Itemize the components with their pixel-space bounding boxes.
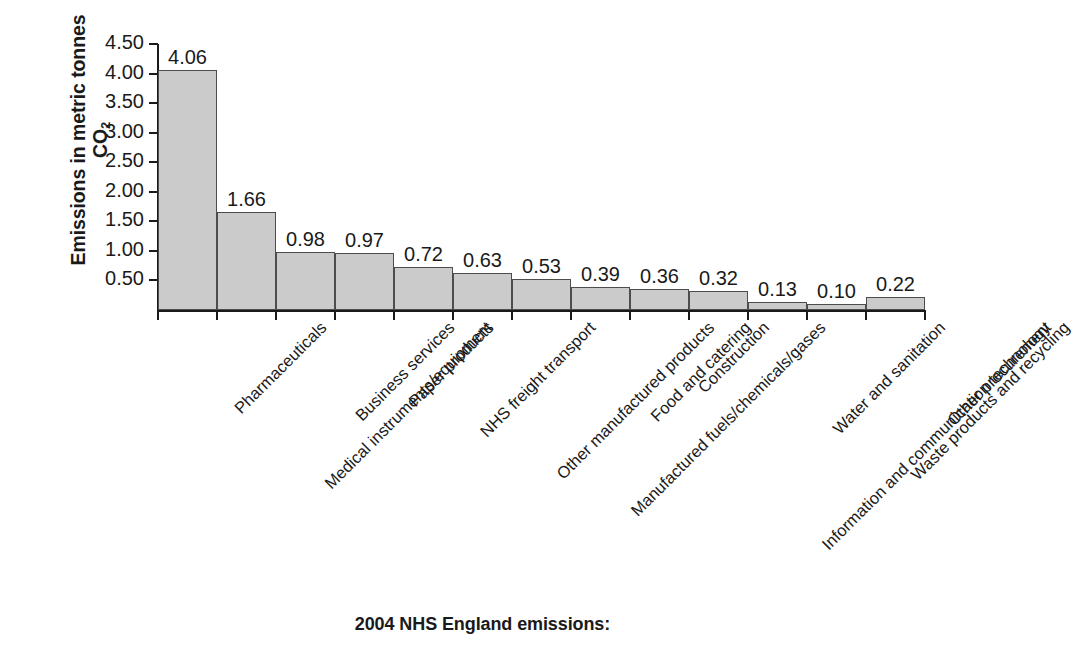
y-axis-tick: 3.00 xyxy=(149,132,158,134)
y-axis-tick: 3.50 xyxy=(149,102,158,104)
bar-value-label: 0.97 xyxy=(345,229,384,252)
y-axis-tick: 4.00 xyxy=(149,73,158,75)
bar: 0.22 xyxy=(866,297,925,310)
x-axis-tick xyxy=(865,310,867,320)
bar-value-label: 4.06 xyxy=(168,46,207,69)
y-axis-tick-label: 1.00 xyxy=(105,238,144,261)
y-axis-tick-label: 4.00 xyxy=(105,61,144,84)
chart-caption: 2004 NHS England emissions: xyxy=(0,614,965,635)
bar: 0.63 xyxy=(453,273,512,310)
x-axis-category-label: Other procurement xyxy=(943,318,1054,429)
y-axis-title-line1: Emissions in metric tonnes xyxy=(68,15,90,266)
y-axis-tick-label: 4.50 xyxy=(105,31,144,54)
bar: 0.72 xyxy=(394,267,453,310)
x-axis-tick xyxy=(629,310,631,320)
bar: 0.39 xyxy=(571,287,630,310)
y-axis-tick-label: 3.00 xyxy=(105,120,144,143)
y-axis-tick-label: 3.50 xyxy=(105,90,144,113)
x-axis-tick xyxy=(452,310,454,320)
x-axis-tick xyxy=(924,310,926,320)
x-axis-line xyxy=(157,310,926,312)
y-axis-tick-label: 0.50 xyxy=(105,267,144,290)
bar: 0.13 xyxy=(748,302,807,310)
x-axis-tick xyxy=(570,310,572,320)
x-axis-category-label: NHS freight transport xyxy=(476,318,599,441)
bar-value-label: 0.98 xyxy=(286,228,325,251)
x-axis-category-label: Water and sanitation xyxy=(829,318,949,438)
y-axis-tick: 1.00 xyxy=(149,250,158,252)
x-axis-tick xyxy=(806,310,808,320)
bar: 4.06 xyxy=(158,70,217,310)
x-axis-tick xyxy=(334,310,336,320)
y-axis-tick: 2.50 xyxy=(149,161,158,163)
y-axis-tick: 2.00 xyxy=(149,191,158,193)
plot-area: 0.501.001.502.002.503.003.504.004.50 4.0… xyxy=(158,44,925,310)
bar-value-label: 0.63 xyxy=(463,249,502,272)
bar: 1.66 xyxy=(217,212,276,310)
y-axis-tick-label: 2.00 xyxy=(105,179,144,202)
bar-value-label: 0.32 xyxy=(699,267,738,290)
bar-value-label: 0.10 xyxy=(817,280,856,303)
bar: 0.36 xyxy=(630,289,689,310)
y-axis-tick-label: 2.50 xyxy=(105,149,144,172)
y-axis-tick: 4.50 xyxy=(149,43,158,45)
x-axis-tick xyxy=(688,310,690,320)
bar: 0.98 xyxy=(276,252,335,310)
bar-value-label: 0.72 xyxy=(404,243,443,266)
x-axis-tick xyxy=(393,310,395,320)
y-axis-tick: 0.50 xyxy=(149,279,158,281)
bar: 0.53 xyxy=(512,279,571,310)
bar: 0.32 xyxy=(689,291,748,310)
bar-value-label: 0.13 xyxy=(758,278,797,301)
bar-value-label: 0.22 xyxy=(876,273,915,296)
bar: 0.10 xyxy=(807,304,866,310)
y-axis-tick: 1.50 xyxy=(149,220,158,222)
bar-value-label: 1.66 xyxy=(227,188,266,211)
x-axis-tick xyxy=(216,310,218,320)
x-axis-tick xyxy=(511,310,513,320)
x-axis-tick xyxy=(275,310,277,320)
x-axis-tick xyxy=(157,310,159,320)
bar: 0.97 xyxy=(335,253,394,310)
x-axis-tick xyxy=(747,310,749,320)
x-axis-category-label: Pharmaceuticals xyxy=(230,318,330,418)
bar-value-label: 0.53 xyxy=(522,255,561,278)
bar-value-label: 0.39 xyxy=(581,263,620,286)
y-axis-tick-label: 1.50 xyxy=(105,208,144,231)
bar-value-label: 0.36 xyxy=(640,265,679,288)
